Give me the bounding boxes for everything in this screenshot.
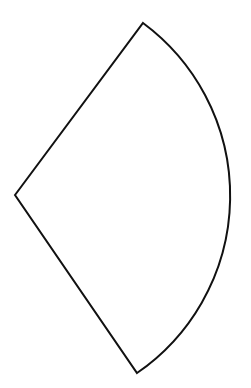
sector-figure bbox=[0, 0, 251, 388]
diagram-canvas bbox=[0, 0, 251, 388]
sector-outline bbox=[15, 23, 230, 373]
